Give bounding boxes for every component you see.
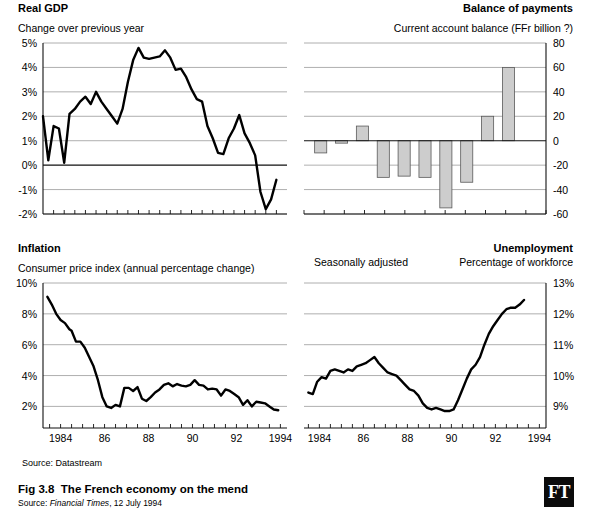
chart-svg-real-gdp: 5%4%3%2%1%0%-1%-2% [0, 38, 295, 233]
bar [315, 141, 327, 153]
x-axis-tick-label: 86 [99, 432, 111, 444]
y-axis-tick-label: 11% [553, 339, 573, 351]
y-axis-tick-label: 12% [553, 308, 574, 320]
y-axis-tick-label: 9% [553, 400, 568, 412]
panel-subtitle-balance-of-payments: Current account balance (FFr billion ?) [296, 22, 573, 35]
panel-title-inflation: Inflation [0, 242, 295, 255]
panel-subtitle-inflation: Consumer price index (annual percentage … [18, 262, 295, 275]
plot-unemployment: 13%12%11%10%9%1984868890921994 [296, 278, 591, 463]
panel-subtitle-row-balance-of-payments: Current account balance (FFr billion ?) [296, 16, 591, 38]
x-axis-tick-label: 86 [358, 432, 370, 444]
y-axis-tick-label: -20 [553, 159, 568, 171]
panel-header-real-gdp: Real GDP [0, 2, 295, 16]
y-axis-tick-label: 20 [553, 110, 565, 122]
figure-caption: Fig 3.8 The French economy on the mend [18, 482, 498, 497]
figure-source-prefix: Source: [18, 498, 47, 508]
bar [482, 116, 494, 140]
bar [461, 141, 473, 183]
panel-unemployment: Unemployment Seasonally adjusted Percent… [296, 242, 591, 464]
x-axis-tick-label: 92 [490, 432, 502, 444]
panel-inflation: Inflation Consumer price index (annual p… [0, 242, 295, 464]
figure-caption-block: Fig 3.8 The French economy on the mend S… [18, 482, 498, 510]
panel-subtitle-left-unemployment: Seasonally adjusted [314, 256, 408, 269]
panel-title-real-gdp: Real GDP [0, 2, 295, 15]
y-axis-tick-label: 1% [22, 135, 37, 147]
x-axis-tick-label: 1994 [528, 432, 552, 444]
y-axis-tick-label: -40 [553, 184, 568, 196]
y-axis-tick-label: 60 [553, 61, 565, 73]
chart-svg-balance-of-payments: 806040200-20-40-60 [296, 38, 591, 233]
y-axis-tick-label: -1% [18, 184, 37, 196]
chart-svg-unemployment: 13%12%11%10%9%1984868890921994 [296, 278, 591, 463]
y-axis-tick-label: 40 [553, 86, 565, 98]
figure-source-publication: Financial Times [50, 498, 109, 508]
y-axis-tick-label: 6% [22, 339, 37, 351]
plot-real-gdp: 5%4%3%2%1%0%-1%-2% [0, 38, 295, 233]
bar [398, 141, 410, 176]
y-axis-tick-label: 10% [16, 278, 37, 289]
panel-real-gdp: Real GDP Change over previous year 5%4%3… [0, 2, 295, 236]
y-axis-tick-label: 13% [553, 278, 574, 289]
bar [377, 141, 389, 178]
panel-subtitle-row-unemployment: Seasonally adjusted Percentage of workfo… [296, 256, 591, 278]
plot-balance-of-payments: 806040200-20-40-60 [296, 38, 591, 233]
y-axis-tick-label: -2% [18, 208, 37, 220]
x-axis-tick-label: 1984 [308, 432, 332, 444]
panel-header-inflation: Inflation [0, 242, 295, 256]
x-axis-tick-label: 1984 [49, 432, 73, 444]
y-axis-tick-label: 80 [553, 38, 565, 49]
panel-header-balance-of-payments: Balance of payments [296, 2, 591, 16]
panel-title-unemployment: Unemployment [296, 242, 591, 255]
bar [356, 126, 368, 141]
panel-subtitle-right-unemployment: Percentage of workforce [459, 256, 573, 269]
data-source-note: Source: Datastream [22, 458, 102, 469]
x-axis-tick-label: 88 [143, 432, 155, 444]
y-axis-tick-label: 10% [553, 370, 574, 382]
plot-inflation: 10%8%6%4%2%1984868890921994 [0, 278, 295, 463]
x-axis-tick-label: 88 [402, 432, 414, 444]
panel-balance-of-payments: Balance of payments Current account bala… [296, 2, 591, 236]
bar [419, 141, 431, 178]
data-series-line [43, 48, 276, 209]
y-axis-tick-label: 4% [22, 370, 37, 382]
y-axis-tick-label: 8% [22, 308, 37, 320]
panel-subtitle-real-gdp: Change over previous year [18, 22, 295, 35]
x-axis-tick-label: 90 [187, 432, 199, 444]
x-axis-tick-label: 92 [231, 432, 243, 444]
y-axis-tick-label: 5% [22, 38, 37, 49]
panel-title-balance-of-payments: Balance of payments [296, 2, 591, 15]
figure-caption-text: The French economy on the mend [61, 483, 248, 495]
x-axis-tick-label: 1994 [269, 432, 293, 444]
figure-source-line: Source: Financial Times, 12 July 1994 [18, 497, 498, 510]
bar [502, 67, 514, 140]
y-axis-tick-label: 2% [22, 400, 37, 412]
y-axis-tick-label: 0% [22, 159, 37, 171]
data-series-line [308, 300, 524, 411]
bar [440, 141, 452, 208]
y-axis-tick-label: 0 [553, 135, 559, 147]
y-axis-tick-label: -60 [553, 208, 568, 220]
y-axis-tick-label: 2% [22, 110, 37, 122]
figure-source-date: , 12 July 1994 [109, 498, 162, 508]
figure-number: Fig 3.8 [18, 483, 54, 495]
panel-subtitle-row-inflation: Consumer price index (annual percentage … [0, 256, 295, 278]
panel-subtitle-row-real-gdp: Change over previous year [0, 16, 295, 38]
panel-header-unemployment: Unemployment [296, 242, 591, 256]
x-axis-tick-label: 90 [446, 432, 458, 444]
chart-svg-inflation: 10%8%6%4%2%1984868890921994 [0, 278, 295, 463]
y-axis-tick-label: 4% [22, 61, 37, 73]
y-axis-tick-label: 3% [22, 86, 37, 98]
figure-container: Real GDP Change over previous year 5%4%3… [0, 0, 591, 512]
financial-times-logo: FT [544, 477, 574, 507]
